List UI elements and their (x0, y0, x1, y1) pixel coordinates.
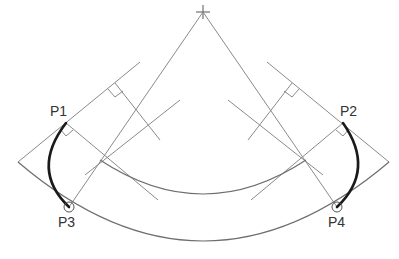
inner-arc (100, 160, 306, 194)
label-p3: P3 (58, 214, 75, 230)
bold-arc-p2-p4 (337, 123, 358, 207)
label-p1: P1 (50, 103, 67, 119)
label-p2: P2 (340, 103, 357, 119)
construction-diagram: P1 P2 P3 P4 (0, 0, 399, 259)
label-p4: P4 (328, 214, 345, 230)
right-perpendicular-p2-line (251, 123, 343, 200)
right-bisector-line (228, 100, 323, 175)
left-outer-tangent-line (18, 62, 140, 162)
center-to-p4-line (203, 12, 337, 207)
right-outer-tangent-line (267, 62, 389, 162)
left-bisector-line (85, 100, 180, 175)
left-perpendicular-p1-line (66, 123, 158, 200)
